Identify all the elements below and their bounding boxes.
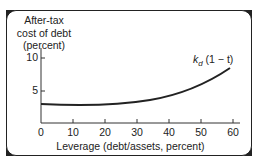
y-tick-label-5: 5 xyxy=(24,84,38,96)
x-tick-label-60: 60 xyxy=(223,126,243,138)
y-axis-label: After-tax cost of debt (percent) xyxy=(14,14,74,52)
y-axis-label-line: After-tax xyxy=(14,14,74,27)
cost-of-debt-curve xyxy=(41,68,230,105)
curve-label: kd (1 − t) xyxy=(193,53,233,68)
x-tick-label-50: 50 xyxy=(191,126,211,138)
x-axis-label: Leverage (debt/assets, percent) xyxy=(0,140,261,152)
curve-label-rest: (1 − t) xyxy=(203,53,234,65)
x-tick-label-20: 20 xyxy=(95,126,115,138)
corner-decoration xyxy=(242,10,252,20)
x-tick-label-10: 10 xyxy=(63,126,83,138)
y-axis-label-line: (percent) xyxy=(14,39,74,52)
y-axis-label-line: cost of debt xyxy=(14,27,74,40)
y-tick-label-10: 10 xyxy=(24,51,38,63)
x-tick-label-40: 40 xyxy=(159,126,179,138)
x-tick-label-30: 30 xyxy=(127,126,147,138)
x-tick-label-0: 0 xyxy=(31,126,51,138)
